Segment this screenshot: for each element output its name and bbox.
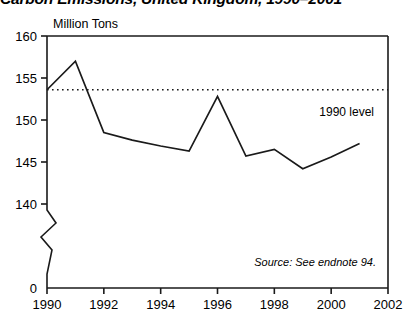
- y-tick-label: 140: [15, 197, 37, 212]
- y-tick-label: 150: [15, 113, 37, 128]
- x-tick-label: 1992: [89, 297, 118, 312]
- x-axis-ticks: 1990199219941996199820002002: [33, 288, 403, 312]
- chart-plot-area: 1601551501451400199019921994199619982000…: [0, 0, 414, 321]
- x-tick-label: 1994: [146, 297, 175, 312]
- data-line-carbon-emissions: [47, 61, 360, 169]
- y-tick-label: 155: [15, 71, 37, 86]
- data-series-group: [47, 61, 360, 169]
- reference-line-label: 1990 level: [319, 105, 374, 119]
- y-axis-unit-label: Million Tons: [53, 17, 118, 31]
- x-tick-label: 1990: [33, 297, 62, 312]
- chart-figure: Carbon Emissions, United Kingdom, 1990–2…: [0, 0, 414, 321]
- x-tick-label: 2002: [374, 297, 403, 312]
- x-tick-label: 2000: [317, 297, 346, 312]
- y-axis-ticks: 1601551501451400: [15, 29, 47, 296]
- y-tick-label: 160: [15, 29, 37, 44]
- axes: [41, 36, 388, 288]
- x-tick-label: 1996: [203, 297, 232, 312]
- source-note: Source: See endnote 94.: [254, 256, 376, 268]
- y-tick-label: 145: [15, 155, 37, 170]
- x-tick-label: 1998: [260, 297, 289, 312]
- y-tick-label: 0: [30, 281, 37, 296]
